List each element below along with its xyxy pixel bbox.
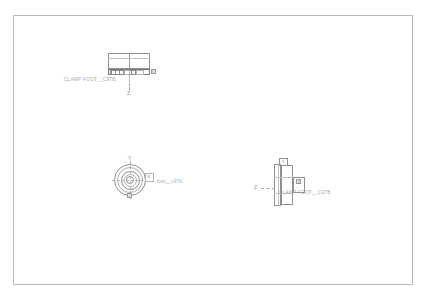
top-view-hatch-band <box>110 70 136 75</box>
side-view-z-leader <box>261 188 275 189</box>
side-view-part-label: CLAMP-FOOT__C97B <box>279 191 331 196</box>
front-view-axis-label-y: Y <box>128 156 131 161</box>
top-view-axis-tag-x: X <box>151 69 156 74</box>
drawing-sheet-frame: X Z CLAMP-FOOT__C97B <box>13 15 413 285</box>
side-view-section-line-upper <box>274 177 293 178</box>
side-view-axis-tag-y: Y <box>281 160 286 165</box>
top-view-z-leader <box>129 75 130 90</box>
front-view-part-label: ...foot__c97b <box>152 180 182 185</box>
front-view-axis-tag-z: Z <box>127 193 132 198</box>
view-side[interactable]: Y X Z CLAMP-FOOT__C97B <box>239 151 339 216</box>
top-view-detail-b <box>136 70 144 75</box>
top-view-guide-upper <box>108 58 150 59</box>
cad-viewport[interactable]: X Z CLAMP-FOOT__C97B <box>0 0 426 301</box>
top-view-part-label: CLAMP-FOOT__C97B <box>64 78 116 83</box>
side-view-axis-tag-x: X <box>296 179 301 184</box>
top-view-center-line <box>129 53 130 69</box>
view-top[interactable]: X Z CLAMP-FOOT__C97B <box>104 48 164 108</box>
side-view-main-body <box>281 165 293 205</box>
top-view-axis-label-z: Z <box>127 91 130 96</box>
side-view-axis-label-z: Z <box>254 185 257 190</box>
top-view-detail-a <box>124 70 130 75</box>
front-view-axis-tag-x-inner: X <box>146 174 151 179</box>
drawing-canvas[interactable]: X Z CLAMP-FOOT__C97B <box>14 16 412 284</box>
view-front[interactable]: Y X X Z ...foot__c97b <box>102 156 182 216</box>
side-view-left-column-divider <box>278 164 279 206</box>
